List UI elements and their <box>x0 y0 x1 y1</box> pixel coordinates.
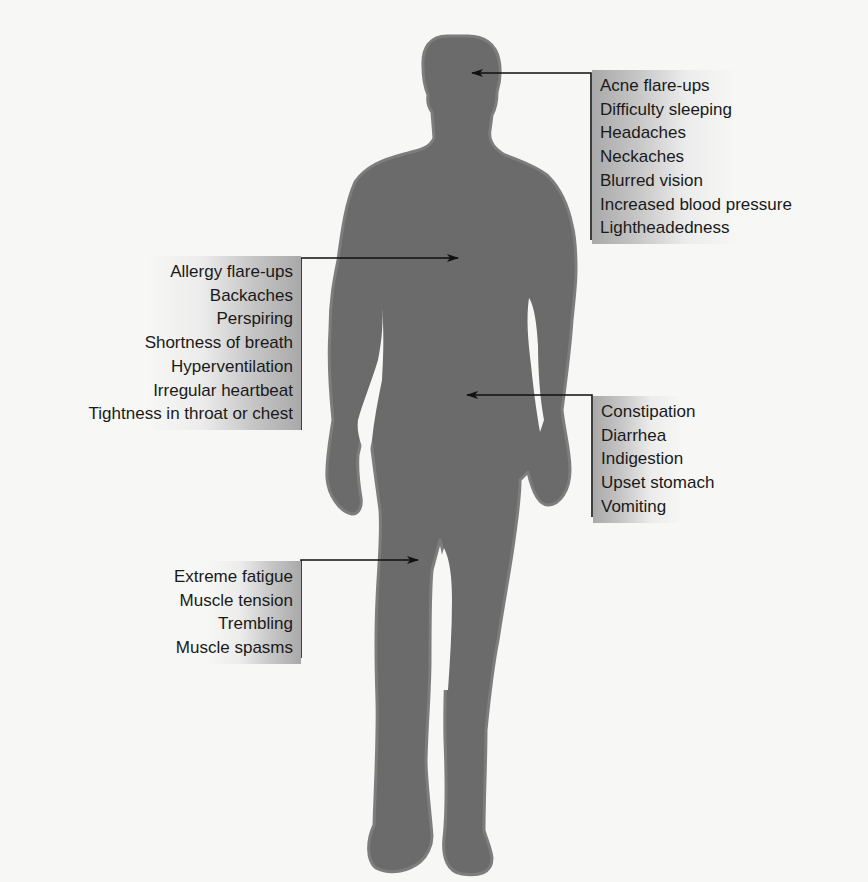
symptom-label: Blurred vision <box>600 169 792 193</box>
symptom-label: Increased blood pressure <box>600 193 792 217</box>
chest-symptoms-list: Allergy flare-ups Backaches Perspiring S… <box>81 256 301 430</box>
symptom-label: Neckaches <box>600 145 792 169</box>
symptom-label: Extreme fatigue <box>174 565 293 589</box>
symptom-label: Headaches <box>600 121 792 145</box>
symptom-label: Difficulty sleeping <box>600 98 792 122</box>
symptom-label: Constipation <box>601 400 714 424</box>
abdomen-symptoms-list: Constipation Diarrhea Indigestion Upset … <box>593 396 722 523</box>
symptom-label: Upset stomach <box>601 471 714 495</box>
symptom-label: Diarrhea <box>601 424 714 448</box>
symptom-label: Muscle spasms <box>174 636 293 660</box>
symptom-label: Hyperventilation <box>89 355 293 379</box>
legs-symptoms-list: Extreme fatigue Muscle tension Trembling… <box>166 561 301 664</box>
symptom-label: Irregular heartbeat <box>89 379 293 403</box>
symptom-label: Trembling <box>174 612 293 636</box>
symptom-label: Tightness in throat or chest <box>89 402 293 426</box>
symptom-label: Indigestion <box>601 447 714 471</box>
human-silhouette <box>327 36 576 875</box>
symptom-label: Perspiring <box>89 307 293 331</box>
symptom-label: Backaches <box>89 284 293 308</box>
symptom-label: Lightheadedness <box>600 216 792 240</box>
symptom-label: Vomiting <box>601 495 714 519</box>
symptom-label: Muscle tension <box>174 589 293 613</box>
symptom-label: Acne flare-ups <box>600 74 792 98</box>
head-symptoms-list: Acne flare-ups Difficulty sleeping Heada… <box>592 70 800 244</box>
symptom-label: Shortness of breath <box>89 331 293 355</box>
symptom-label: Allergy flare-ups <box>89 260 293 284</box>
